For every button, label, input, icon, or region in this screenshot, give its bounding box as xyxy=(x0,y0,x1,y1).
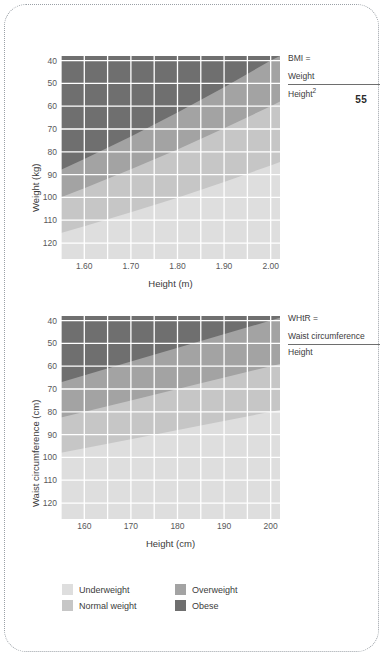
x-tick-label: 1.70 xyxy=(123,262,140,271)
y-tick-label: 40 xyxy=(33,316,57,325)
figure-whtr-nomogram: Waist circumference (cm) 120110100908070… xyxy=(0,302,383,560)
bmi-x-tick-labels: 1.601.701.801.902.00 xyxy=(61,262,280,276)
y-tick-label: 100 xyxy=(33,193,57,202)
legend-label: Normal weight xyxy=(79,601,137,611)
figure-bmi-nomogram: Weight (kg) 120110100908070605040 1.601.… xyxy=(0,42,383,300)
y-tick-label: 60 xyxy=(33,362,57,371)
legend-item-underweight: Underweight xyxy=(62,584,130,595)
y-tick-label: 60 xyxy=(33,102,57,111)
bmi-plot-area xyxy=(61,56,280,259)
y-tick-label: 50 xyxy=(33,79,57,88)
y-tick-label: 80 xyxy=(33,148,57,157)
x-tick-label: 180 xyxy=(170,522,184,531)
y-tick-label: 70 xyxy=(33,385,57,394)
legend-item-obese: Obese xyxy=(175,600,219,611)
x-tick-label: 1.80 xyxy=(169,262,186,271)
plot-whtr-svg xyxy=(61,316,280,519)
y-tick-label: 100 xyxy=(33,453,57,462)
plot-bmi-svg xyxy=(61,56,280,259)
x-tick-label: 160 xyxy=(77,522,91,531)
bmi-formula-head: BMI = xyxy=(288,54,380,63)
whtr-formula-numerator: Waist circumference xyxy=(288,332,380,345)
chart-legend: UnderweightNormal weightOverweightObese xyxy=(62,584,322,618)
legend-label: Obese xyxy=(192,601,219,611)
y-tick-label: 50 xyxy=(33,339,57,348)
bmi-formula: BMI = Weight Height2 xyxy=(288,54,380,99)
y-tick-label: 120 xyxy=(33,239,57,248)
y-tick-label: 70 xyxy=(33,125,57,134)
x-tick-label: 190 xyxy=(217,522,231,531)
y-tick-label: 110 xyxy=(33,476,57,485)
x-tick-label: 200 xyxy=(264,522,278,531)
bmi-formula-numerator: Weight xyxy=(288,72,380,85)
x-tick-label: 1.60 xyxy=(76,262,93,271)
legend-label: Underweight xyxy=(79,585,130,595)
x-tick-label: 2.00 xyxy=(262,262,279,271)
bmi-x-axis-title: Height (m) xyxy=(61,278,280,289)
whtr-formula: WHtR = Waist circumference Height xyxy=(288,314,380,357)
legend-label: Overweight xyxy=(192,585,238,595)
bmi-formula-denominator: Height2 xyxy=(288,85,380,99)
y-tick-label: 40 xyxy=(33,56,57,65)
legend-swatch-icon xyxy=(175,600,186,611)
whtr-formula-denominator: Height xyxy=(288,345,380,357)
y-tick-label: 110 xyxy=(33,216,57,225)
whtr-x-axis-title: Height (cm) xyxy=(61,538,280,549)
whtr-formula-head: WHtR = xyxy=(288,314,380,323)
whtr-y-tick-labels: 120110100908070605040 xyxy=(31,316,57,519)
legend-item-overweight: Overweight xyxy=(175,584,238,595)
legend-item-normal-weight: Normal weight xyxy=(62,600,137,611)
y-tick-label: 90 xyxy=(33,430,57,439)
whtr-plot-area xyxy=(61,316,280,519)
bmi-y-tick-labels: 120110100908070605040 xyxy=(31,56,57,259)
bmi-formula-exponent: 2 xyxy=(313,87,317,94)
legend-swatch-icon xyxy=(62,584,73,595)
y-tick-label: 90 xyxy=(33,170,57,179)
x-tick-label: 170 xyxy=(124,522,138,531)
legend-swatch-icon xyxy=(62,600,73,611)
x-tick-label: 1.90 xyxy=(216,262,233,271)
y-tick-label: 80 xyxy=(33,408,57,417)
book-page: 55 Weight (kg) 120110100908070605040 1.6… xyxy=(0,0,383,656)
whtr-x-tick-labels: 160170180190200 xyxy=(61,522,280,536)
y-tick-label: 120 xyxy=(33,499,57,508)
legend-swatch-icon xyxy=(175,584,186,595)
